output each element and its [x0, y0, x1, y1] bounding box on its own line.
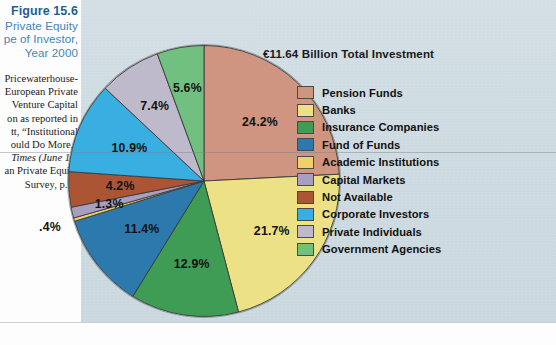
- legend-item[interactable]: Corporate Investors: [297, 206, 467, 223]
- legend-label: Banks: [322, 104, 356, 116]
- legend-label: Pension Funds: [322, 87, 403, 99]
- legend-label: Corporate Investors: [322, 208, 429, 220]
- legend-item[interactable]: Not Available: [297, 188, 467, 205]
- legend-swatch-icon: [297, 243, 314, 256]
- pie-slice-value-label: 24.2%: [242, 115, 278, 129]
- pie-slice-value-label: 11.4%: [124, 222, 159, 236]
- legend-swatch-icon: [297, 191, 314, 204]
- legend-label: Not Available: [322, 191, 393, 203]
- legend-label: Insurance Companies: [322, 121, 439, 133]
- chart-legend: Pension FundsBanksInsurance CompaniesFun…: [297, 84, 467, 258]
- panel-bottom-edge: [0, 322, 556, 323]
- pie-slice-value-label: 12.9%: [174, 257, 210, 271]
- legend-swatch-icon: [297, 173, 314, 186]
- legend-label: Academic Institutions: [322, 156, 439, 168]
- pie-slice-value-label: .4%: [39, 220, 61, 234]
- pie-slice-value-label: 1.3%: [95, 197, 124, 211]
- figure-title-line-1: Private Equity: [0, 19, 78, 32]
- pie-slice-value-label: 5.6%: [173, 81, 202, 95]
- figure-number: Figure 15.6: [0, 4, 78, 18]
- pie-slice-value-label: 21.7%: [254, 224, 290, 238]
- legend-item[interactable]: Pension Funds: [297, 84, 467, 101]
- figure-page: Figure 15.6 Private Equity pe of Investo…: [0, 0, 556, 345]
- legend-swatch-icon: [297, 104, 314, 117]
- legend-item[interactable]: Insurance Companies: [297, 119, 467, 136]
- legend-swatch-icon: [297, 86, 314, 99]
- pie-slice-value-label: 4.2%: [106, 179, 135, 193]
- legend-swatch-icon: [297, 156, 314, 169]
- pie-slice-value-label: 10.9%: [112, 141, 148, 155]
- legend-swatch-icon: [297, 208, 314, 221]
- figure-title-line-2: pe of Investor,: [0, 32, 78, 45]
- legend-label: Fund of Funds: [322, 139, 400, 151]
- legend-swatch-icon: [297, 225, 314, 238]
- legend-item[interactable]: Government Agencies: [297, 241, 467, 258]
- pie-slice-value-label: 7.4%: [140, 99, 169, 113]
- legend-item[interactable]: Private Individuals: [297, 223, 467, 240]
- legend-swatch-icon: [297, 138, 314, 151]
- legend-label: Capital Markets: [322, 174, 405, 186]
- total-investment-label: €11.64 Billion Total Investment: [263, 47, 434, 60]
- legend-swatch-icon: [297, 121, 314, 134]
- legend-item[interactable]: Fund of Funds: [297, 136, 467, 153]
- legend-label: Private Individuals: [322, 226, 422, 238]
- legend-item[interactable]: Academic Institutions: [297, 154, 467, 171]
- legend-item[interactable]: Banks: [297, 101, 467, 118]
- legend-label: Government Agencies: [322, 243, 441, 255]
- legend-item[interactable]: Capital Markets: [297, 171, 467, 188]
